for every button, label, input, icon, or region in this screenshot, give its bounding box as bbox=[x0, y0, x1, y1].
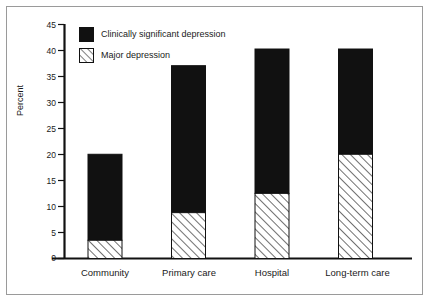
bar-segment-clinically-significant bbox=[339, 49, 373, 154]
bar-segment-major-depression bbox=[172, 213, 206, 259]
bar-segment-clinically-significant bbox=[88, 154, 122, 240]
bar-segment-major-depression bbox=[88, 240, 122, 258]
plot-area bbox=[0, 0, 429, 301]
bar-segment-clinically-significant bbox=[255, 49, 289, 193]
chart-figure: Percent 45 40 35 30 25 20 15 10 5 0 Clin… bbox=[0, 0, 429, 301]
bar-group bbox=[88, 49, 373, 258]
x-category-label-community: Community bbox=[60, 268, 150, 278]
bar-segment-major-depression bbox=[255, 193, 289, 258]
bar-segment-major-depression bbox=[339, 154, 373, 258]
x-category-label-primary-care: Primary care bbox=[144, 268, 234, 278]
x-category-label-hospital: Hospital bbox=[227, 268, 317, 278]
x-category-label-long-term-care: Long-term care bbox=[305, 268, 410, 278]
bar-segment-clinically-significant bbox=[172, 66, 206, 213]
